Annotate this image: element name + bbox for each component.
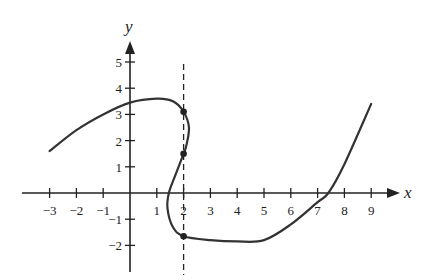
- y-axis-arrow-icon: [125, 41, 135, 54]
- y-ticks: −2−112345: [108, 55, 135, 253]
- x-tick-label: 5: [261, 203, 268, 218]
- marked-point: [180, 150, 187, 157]
- x-tick-label: 8: [341, 203, 348, 218]
- y-tick-label: 4: [116, 81, 123, 96]
- x-tick-label: 3: [207, 203, 214, 218]
- x-tick-label: 9: [368, 203, 375, 218]
- y-tick-label: 1: [116, 160, 123, 175]
- x-tick-label: 1: [154, 203, 161, 218]
- x-axis-arrow-icon: [387, 188, 400, 198]
- y-tick-label: 2: [116, 134, 123, 149]
- y-axis-label: y: [123, 17, 133, 36]
- chart: x y −3−2−1123456789 −2−112345: [0, 0, 423, 280]
- marked-point: [180, 233, 187, 240]
- x-axis-label: x: [403, 183, 412, 202]
- y-tick-label: −2: [108, 238, 122, 253]
- x-tick-label: 4: [234, 203, 241, 218]
- marked-point: [180, 108, 187, 115]
- y-tick-label: −1: [108, 212, 122, 227]
- x-tick-label: 6: [288, 203, 295, 218]
- curve: [50, 99, 372, 242]
- x-tick-label: −2: [69, 203, 83, 218]
- y-tick-label: 5: [116, 55, 123, 70]
- y-tick-label: 3: [116, 107, 123, 122]
- x-tick-label: −3: [43, 203, 57, 218]
